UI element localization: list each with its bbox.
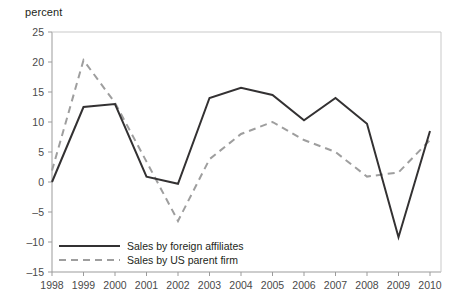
y-tick-label: –5 [32,206,44,218]
legend-label-2: Sales by US parent firm [127,254,238,266]
x-tick-label: 2009 [387,279,411,291]
x-tick-label: 1999 [72,279,96,291]
series-line-2 [52,60,430,221]
legend-label-1: Sales by foreign affiliates [127,240,244,252]
y-tick-label: 5 [38,146,44,158]
x-tick-label: 1998 [40,279,64,291]
chart-legend: Sales by foreign affiliatesSales by US p… [59,240,244,266]
x-tick-label: 2003 [198,279,222,291]
series-line-1 [52,88,430,237]
chart-container: percent 2520151050–5–10–15 1998199920002… [0,0,457,303]
x-tick-label: 2005 [261,279,285,291]
x-tick-label: 2001 [135,279,159,291]
y-tick-label: 25 [32,26,44,38]
plot-frame [52,32,441,272]
line-chart-plot: 2520151050–5–10–15 199819992000200120022… [0,0,457,303]
y-tick-label: 0 [38,176,44,188]
x-tick-label: 2006 [292,279,316,291]
y-tick-label: 15 [32,86,44,98]
y-tick-label: –15 [26,266,44,278]
x-tick-label: 2002 [166,279,190,291]
y-tick-label: 20 [32,56,44,68]
y-axis-ticks: 2520151050–5–10–15 [26,26,52,278]
data-series-group [52,60,430,237]
x-tick-label: 2000 [103,279,127,291]
x-tick-label: 2010 [418,279,442,291]
y-tick-label: –10 [26,236,44,248]
x-tick-label: 2008 [355,279,379,291]
y-tick-label: 10 [32,116,44,128]
x-tick-label: 2004 [229,279,253,291]
x-axis-ticks: 1998199920002001200220032004200520062007… [40,272,442,291]
x-tick-label: 2007 [324,279,348,291]
